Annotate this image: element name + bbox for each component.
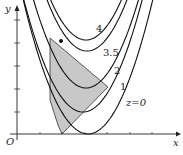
diagram-canvas: y x O z=0123.54 [0,0,183,155]
level-curve [0,0,182,40]
curve-label: z=0 [125,97,147,108]
origin-label: O [6,136,14,147]
curve-label: 4 [96,23,102,34]
y-axis-arrow-icon [15,5,20,11]
contour-diagram: y x O z=0123.54 [0,0,183,155]
level-curve [0,0,182,134]
curve-label: 1 [120,81,126,92]
y-axis-label: y [4,3,11,14]
level-curves [0,0,182,134]
x-axis-label: x [173,137,179,148]
curve-label: 3.5 [103,47,119,58]
curve-label: 2 [114,65,120,76]
level-curve [0,0,182,51]
x-axis-arrow-icon [176,132,181,137]
optimum-point [59,39,63,43]
